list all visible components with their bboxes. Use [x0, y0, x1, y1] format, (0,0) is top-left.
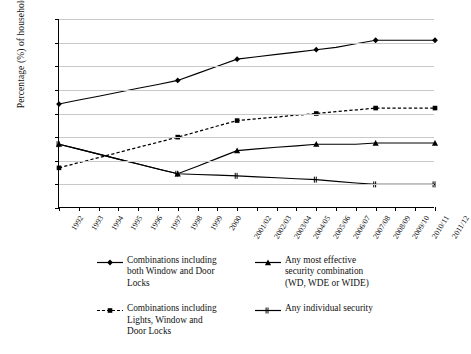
- x-tick-mark: [336, 207, 337, 211]
- y-tick-mark: [55, 137, 59, 138]
- x-tick-label: 2003/04: [292, 214, 313, 240]
- legend-label-line: both Window and Door: [127, 266, 217, 277]
- data-point-square: [108, 308, 113, 313]
- x-tick-label: 2011/12: [450, 214, 471, 240]
- x-tick-mark: [217, 207, 218, 211]
- legend-label-line: Door Locks: [127, 326, 217, 337]
- legend-label-line: Combinations including: [127, 255, 217, 266]
- data-point-square: [57, 166, 62, 171]
- data-point-diamond: [56, 101, 62, 107]
- gridline: [59, 90, 434, 91]
- x-tick-label: 2009/10: [410, 214, 431, 240]
- x-tick-label: 1998: [188, 214, 204, 232]
- y-axis-title: Percentage (%) of households: [16, 0, 26, 133]
- x-tick-mark: [356, 207, 357, 211]
- legend-marker-icon: [254, 303, 284, 318]
- data-point-square: [235, 118, 240, 123]
- legend-marker-icon: [96, 255, 126, 270]
- x-tick-label: 2005/06: [331, 214, 352, 240]
- x-tick-label: 1997: [168, 214, 184, 232]
- series-line: [59, 40, 435, 104]
- data-point-diamond: [234, 56, 240, 62]
- y-tick-mark: [55, 114, 59, 115]
- x-tick-mark: [237, 207, 238, 211]
- chart-legend: Combinations includingboth Window and Do…: [96, 255, 446, 337]
- legend-label-line: Combinations including: [127, 303, 217, 314]
- gridline: [59, 161, 434, 162]
- gridline: [59, 19, 434, 20]
- x-tick-label: 1994: [109, 214, 125, 232]
- legend-label-line: Any individual security: [285, 303, 373, 314]
- x-tick-mark: [59, 207, 60, 211]
- legend-symbol-diamond-solid-line: [96, 258, 124, 267]
- legend-label: Any individual security: [284, 303, 373, 314]
- legend-label-line: Any most effective: [285, 255, 369, 266]
- gridline: [59, 184, 434, 185]
- y-tick-mark: [55, 184, 59, 185]
- x-tick-mark: [198, 207, 199, 211]
- x-tick-label: 2006/07: [351, 214, 372, 240]
- y-tick-mark: [55, 66, 59, 67]
- legend-symbol-triangle-solid-line: [254, 258, 282, 267]
- x-tick-mark: [376, 207, 377, 211]
- gridline: [59, 137, 434, 138]
- data-point-square: [433, 106, 438, 111]
- x-tick-label: 1995: [129, 214, 145, 232]
- legend-symbol-x-solid-line: [254, 306, 282, 315]
- legend-label-line: Locks: [127, 278, 217, 289]
- x-tick-label: 2002/03: [272, 214, 293, 240]
- x-tick-label: 2000: [228, 214, 244, 232]
- y-tick-mark: [55, 90, 59, 91]
- x-tick-mark: [118, 207, 119, 211]
- data-point-diamond: [313, 47, 319, 53]
- x-tick-label: 2001/02: [252, 214, 273, 240]
- legend-label: Any most effectivesecurity combination(W…: [284, 255, 369, 289]
- x-tick-label: 1999: [208, 214, 224, 232]
- legend-label: Combinations includingLights, Window and…: [126, 303, 217, 337]
- gridline: [59, 114, 434, 115]
- x-tick-mark: [395, 207, 396, 211]
- x-tick-mark: [178, 207, 179, 211]
- legend-item[interactable]: Any individual security: [254, 303, 434, 337]
- y-tick-mark: [55, 19, 59, 20]
- legend-marker-icon: [96, 303, 126, 318]
- y-tick-mark: [55, 161, 59, 162]
- plot-area: [58, 19, 434, 208]
- x-tick-label: 1992: [69, 214, 85, 232]
- x-tick-label: 2007/08: [371, 214, 392, 240]
- legend-label-line: Lights, Window and: [127, 315, 217, 326]
- legend-label-line: (WD, WDE or WIDE): [285, 278, 369, 289]
- legend-item[interactable]: Any most effectivesecurity combination(W…: [254, 255, 434, 289]
- x-tick-label: 1993: [89, 214, 105, 232]
- x-tick-mark: [79, 207, 80, 211]
- x-tick-mark: [158, 207, 159, 211]
- x-tick-mark: [99, 207, 100, 211]
- legend-label-line: security combination: [285, 266, 369, 277]
- series-3: [57, 141, 435, 187]
- x-tick-label: 2008/09: [391, 214, 412, 240]
- x-tick-mark: [415, 207, 416, 211]
- x-tick-mark: [316, 207, 317, 211]
- legend-label: Combinations includingboth Window and Do…: [126, 255, 217, 289]
- x-tick-label: 2004/05: [311, 214, 332, 240]
- x-tick-mark: [257, 207, 258, 211]
- data-point-diamond: [175, 78, 181, 84]
- legend-marker-icon: [254, 255, 284, 270]
- gridline: [59, 43, 434, 44]
- gridline: [59, 66, 434, 67]
- x-tick-mark: [296, 207, 297, 211]
- legend-row: Combinations includingLights, Window and…: [96, 303, 446, 337]
- x-tick-label: 2010/11: [430, 214, 451, 240]
- x-tick-mark: [138, 207, 139, 211]
- data-point-square: [373, 106, 378, 111]
- y-tick-mark: [55, 43, 59, 44]
- legend-item[interactable]: Combinations includingLights, Window and…: [96, 303, 254, 337]
- data-point-diamond: [107, 260, 113, 266]
- legend-row: Combinations includingboth Window and Do…: [96, 255, 446, 289]
- x-tick-label: 1996: [148, 214, 164, 232]
- x-tick-mark: [435, 207, 436, 211]
- legend-spacer: [96, 289, 446, 303]
- legend-symbol-square-dashed-line: [96, 306, 124, 315]
- legend-item[interactable]: Combinations includingboth Window and Do…: [96, 255, 254, 289]
